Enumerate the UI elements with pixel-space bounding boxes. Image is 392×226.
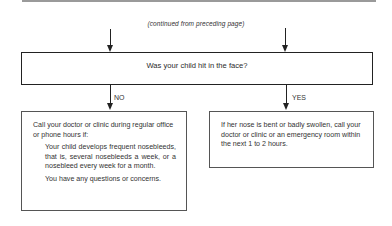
yes-outcome-box: If her nose is bent or badly swollen, ca… (209, 111, 374, 168)
top-rule (22, 0, 376, 2)
yes-arrow-shaft (286, 85, 287, 104)
arrow-down-icon (107, 45, 113, 52)
incoming-arrow-right-shaft (285, 28, 286, 46)
question-text: Was your child hit in the face? (22, 61, 372, 70)
continued-note: (continued from preceding page) (0, 20, 392, 27)
yes-outcome-text: If her nose is bent or badly swollen, ca… (221, 121, 363, 150)
no-label: NO (114, 94, 125, 101)
arrow-down-icon (282, 45, 288, 52)
no-arrow-shaft (110, 85, 111, 104)
no-outcome-condition: You have any questions or concerns. (33, 175, 176, 185)
arrow-down-icon (107, 103, 113, 110)
no-outcome-condition: Your child develops frequent nosebleeds,… (33, 143, 176, 172)
arrow-down-icon (283, 103, 289, 110)
no-outcome-box: Call your doctor or clinic during regula… (21, 111, 187, 211)
yes-label: YES (292, 94, 306, 101)
question-box: Was your child hit in the face? (21, 52, 373, 85)
incoming-arrow-left-shaft (110, 29, 111, 46)
no-outcome-intro: Call your doctor or clinic during regula… (33, 121, 176, 140)
